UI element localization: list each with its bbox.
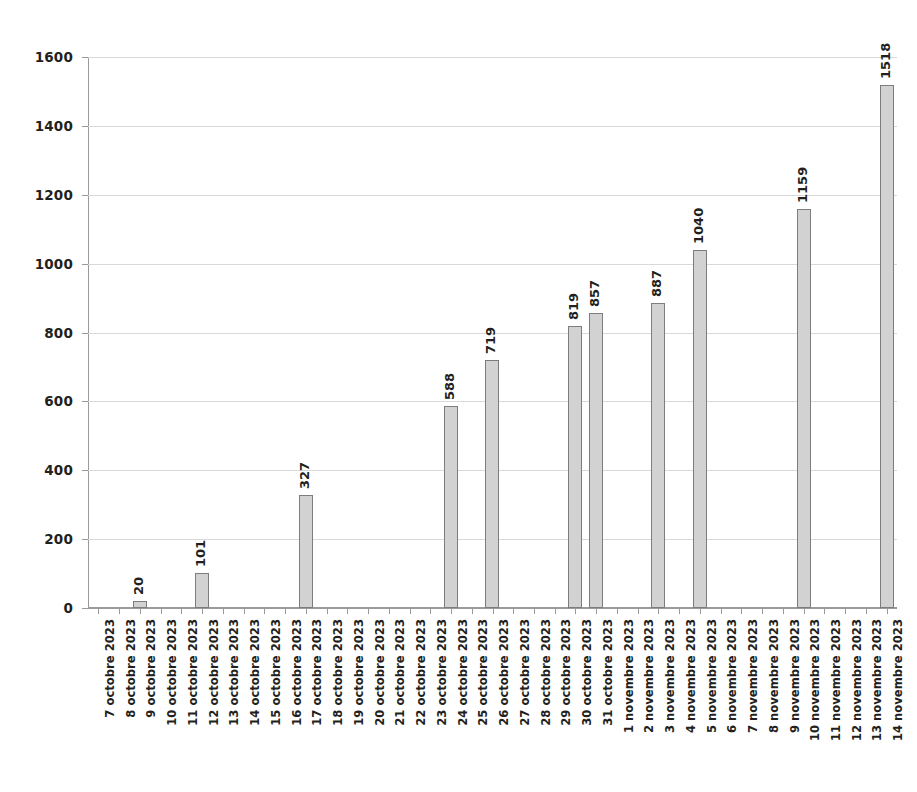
bar[interactable] bbox=[880, 85, 894, 608]
x-axis-tick-label: 3 novembre 2023 bbox=[663, 619, 677, 733]
x-axis-tick-mark bbox=[430, 608, 431, 614]
bar[interactable] bbox=[444, 406, 458, 608]
bar-value-label: 1159 bbox=[795, 167, 810, 203]
bar[interactable] bbox=[485, 360, 499, 608]
x-axis-tick-mark bbox=[98, 608, 99, 614]
x-axis-tick-mark bbox=[306, 608, 307, 614]
plot-area: 20101327588719819857887104011591518 bbox=[88, 57, 897, 608]
x-axis-tick-mark bbox=[887, 608, 888, 614]
x-axis-tick-mark bbox=[368, 608, 369, 614]
bar[interactable] bbox=[299, 495, 313, 608]
bar-value-label: 588 bbox=[442, 372, 457, 399]
bar[interactable] bbox=[568, 326, 582, 608]
y-axis-tick-label: 1400 bbox=[13, 118, 73, 134]
x-axis-tick-mark bbox=[181, 608, 182, 614]
x-axis-tick-label: 14 octobre 2023 bbox=[248, 619, 262, 726]
x-axis-tick-mark bbox=[513, 608, 514, 614]
x-axis-tick-label: 15 octobre 2023 bbox=[269, 619, 283, 726]
x-axis-tick-mark bbox=[285, 608, 286, 614]
bar-value-label: 819 bbox=[566, 293, 581, 320]
x-axis-tick-label: 12 octobre 2023 bbox=[207, 619, 221, 726]
bar[interactable] bbox=[797, 209, 811, 608]
x-axis-tick-label: 11 novembre 2023 bbox=[829, 619, 843, 741]
x-axis-tick-label: 10 novembre 2023 bbox=[808, 619, 822, 741]
x-axis-tick-mark bbox=[223, 608, 224, 614]
x-axis-tick-mark bbox=[804, 608, 805, 614]
x-axis-tick-mark bbox=[534, 608, 535, 614]
x-axis-tick-mark bbox=[119, 608, 120, 614]
x-axis-tick-mark bbox=[866, 608, 867, 614]
x-axis-tick-mark bbox=[202, 608, 203, 614]
y-axis-tick-label: 0 bbox=[13, 600, 73, 616]
x-axis-tick-mark bbox=[617, 608, 618, 614]
x-axis-tick-label: 5 novembre 2023 bbox=[705, 619, 719, 733]
x-axis-tick-label: 27 octobre 2023 bbox=[518, 619, 532, 726]
x-axis-tick-mark bbox=[555, 608, 556, 614]
x-axis-tick-label: 26 octobre 2023 bbox=[497, 619, 511, 726]
bar[interactable] bbox=[195, 573, 209, 608]
x-axis-tick-mark bbox=[244, 608, 245, 614]
x-axis-tick-mark bbox=[347, 608, 348, 614]
bar-slot: 327 bbox=[295, 57, 316, 608]
x-axis-tick-mark bbox=[824, 608, 825, 614]
y-axis-tick-mark bbox=[82, 539, 88, 540]
bar[interactable] bbox=[133, 601, 147, 608]
x-axis-tick-mark bbox=[700, 608, 701, 614]
x-axis-tick-label: 8 novembre 2023 bbox=[767, 619, 781, 733]
bar-value-label: 1518 bbox=[878, 43, 893, 79]
x-axis-tick-label: 1 novembre 2023 bbox=[622, 619, 636, 733]
x-axis-tick-label: 12 novembre 2023 bbox=[850, 619, 864, 741]
y-axis-tick-label: 1000 bbox=[13, 256, 73, 272]
x-axis-tick-label: 30 octobre 2023 bbox=[580, 619, 594, 726]
x-axis-tick-label: 6 novembre 2023 bbox=[725, 619, 739, 733]
y-axis-tick-label: 200 bbox=[13, 531, 73, 547]
x-axis-tick-label: 9 novembre 2023 bbox=[788, 619, 802, 733]
y-axis-tick-mark bbox=[82, 608, 88, 609]
y-axis-tick-label: 600 bbox=[13, 393, 73, 409]
x-axis-tick-mark bbox=[140, 608, 141, 614]
y-axis-tick-mark bbox=[82, 264, 88, 265]
x-axis-tick-label: 31 octobre 2023 bbox=[601, 619, 615, 726]
x-axis-tick-label: 20 octobre 2023 bbox=[373, 619, 387, 726]
bar-value-label: 719 bbox=[483, 327, 498, 354]
bar-slot: 1518 bbox=[876, 57, 897, 608]
bar-value-label: 101 bbox=[193, 540, 208, 567]
x-axis-tick-mark bbox=[679, 608, 680, 614]
x-axis-tick-mark bbox=[762, 608, 763, 614]
x-axis-tick-mark bbox=[264, 608, 265, 614]
x-axis-tick-label: 16 octobre 2023 bbox=[290, 619, 304, 726]
bar[interactable] bbox=[693, 250, 707, 608]
bar-slot: 1159 bbox=[793, 57, 814, 608]
y-axis-tick-label: 1600 bbox=[13, 49, 73, 65]
bar-slot: 819 bbox=[565, 57, 586, 608]
x-axis-tick-mark bbox=[161, 608, 162, 614]
y-axis-tick-mark bbox=[82, 401, 88, 402]
x-axis-tick-mark bbox=[575, 608, 576, 614]
x-axis-tick-mark bbox=[451, 608, 452, 614]
bar-value-label: 327 bbox=[297, 462, 312, 489]
x-axis-tick-mark bbox=[389, 608, 390, 614]
x-axis-tick-label: 13 octobre 2023 bbox=[227, 619, 241, 726]
y-axis-tick-mark bbox=[82, 126, 88, 127]
x-axis-tick-label: 28 octobre 2023 bbox=[539, 619, 553, 726]
y-axis-tick-label: 400 bbox=[13, 462, 73, 478]
x-axis-tick-label: 17 octobre 2023 bbox=[310, 619, 324, 726]
x-axis-tick-label: 9 octobre 2023 bbox=[144, 619, 158, 718]
x-axis-tick-label: 18 octobre 2023 bbox=[331, 619, 345, 726]
x-axis-tick-mark bbox=[327, 608, 328, 614]
x-axis-tick-mark bbox=[638, 608, 639, 614]
bar-slot: 1040 bbox=[690, 57, 711, 608]
bar[interactable] bbox=[589, 313, 603, 608]
x-axis-tick-label: 29 octobre 2023 bbox=[559, 619, 573, 726]
y-axis-tick-mark bbox=[82, 333, 88, 334]
bar-chart: 20101327588719819857887104011591518 0200… bbox=[0, 0, 917, 792]
bar-value-label: 887 bbox=[649, 269, 664, 296]
bar[interactable] bbox=[651, 303, 665, 608]
bar-value-label: 1040 bbox=[691, 208, 706, 244]
bar-slot: 857 bbox=[586, 57, 607, 608]
x-axis-tick-mark bbox=[741, 608, 742, 614]
x-axis-tick-mark bbox=[410, 608, 411, 614]
bar-slot: 887 bbox=[648, 57, 669, 608]
x-axis-tick-label: 19 octobre 2023 bbox=[352, 619, 366, 726]
y-axis-tick-label: 800 bbox=[13, 325, 73, 341]
